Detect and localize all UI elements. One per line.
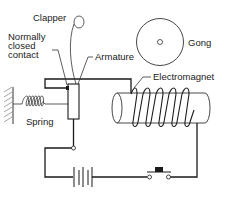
armature-label: Armature (95, 51, 134, 62)
gong (137, 19, 184, 66)
spring (13, 96, 68, 106)
normally-closed-contact (66, 86, 69, 90)
electric-bell-diagram: Spring Clapper Normally closed contact A… (0, 0, 233, 202)
electromagnet-label: Electromagnet (153, 71, 215, 82)
left-wire (45, 148, 73, 177)
armature-leader (78, 57, 93, 84)
contact-wire (45, 79, 131, 94)
right-wire (171, 123, 198, 177)
armature (68, 84, 79, 119)
wall-mount (4, 87, 13, 124)
electromagnet (112, 88, 210, 127)
battery (74, 167, 92, 187)
push-switch (147, 167, 171, 179)
contact-leader (52, 50, 67, 85)
spring-label: Spring (26, 116, 53, 127)
terminal (72, 146, 76, 150)
electromagnet-leader (134, 77, 151, 88)
contact-label-line3: contact (8, 49, 39, 60)
clapper-label: Clapper (33, 12, 66, 23)
gong-label: Gong (188, 37, 211, 48)
